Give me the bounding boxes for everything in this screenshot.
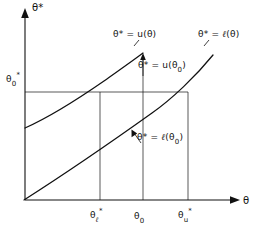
lower-intersection-label: θ* = ℓ(θ0) [137,133,183,142]
x-tick-2-theta: θ [134,211,140,221]
curve-lower-ell [24,55,213,200]
y-tick-subscript: 0 [12,80,17,88]
lower-intersection-close: ) [179,132,183,142]
lower-intersection-open: (θ [165,132,174,142]
upper-intersection-subscript: 0 [178,66,183,74]
x-tick-label-theta0: θ0 [134,212,144,221]
x-tick-1-subscript: ℓ [96,215,99,224]
x-tick-label-theta-u-star: θu* [178,211,192,220]
y-tick-superscript: * [16,71,20,79]
upper-intersection-close: ) [182,60,186,70]
x-tick-3-subscript: u [184,216,189,224]
lower-intersection-subscript: 0 [175,138,180,146]
lower-curve-label-prefix: θ* = [198,29,222,39]
x-axis [25,196,240,204]
x-tick-3-theta: θ [178,210,184,220]
x-tick-3-superscript: * [188,207,192,215]
x-axis-label: θ [243,196,249,206]
pointer-upper-curve-label [134,40,139,46]
y-tick-label-theta0-star: θ0* [6,75,20,84]
x-tick-1-superscript: * [99,207,103,215]
curve-upper-u [25,53,143,128]
upper-curve-label: θ* = u(θ) [113,30,156,39]
y-tick-theta: θ [6,74,12,84]
y-axis [21,8,29,200]
lower-intersection-prefix: θ* = [137,132,161,142]
upper-intersection-label: θ* = u(θ0) [138,61,186,70]
pointer-lower-curve-label [204,40,209,46]
figure-container: θ* θ θ* = u(θ) θ* = ℓ(θ) θ* = u(θ0) θ* =… [0,0,261,235]
x-tick-label-theta-l-star: θℓ* [90,211,103,220]
lower-curve-label: θ* = ℓ(θ) [198,30,239,39]
upper-intersection-prefix: θ* = u(θ [138,60,178,70]
lower-curve-label-arg: (θ) [226,29,239,39]
x-tick-1-theta: θ [90,210,96,220]
y-axis-label: θ* [32,3,44,13]
x-tick-2-subscript: 0 [140,217,145,225]
